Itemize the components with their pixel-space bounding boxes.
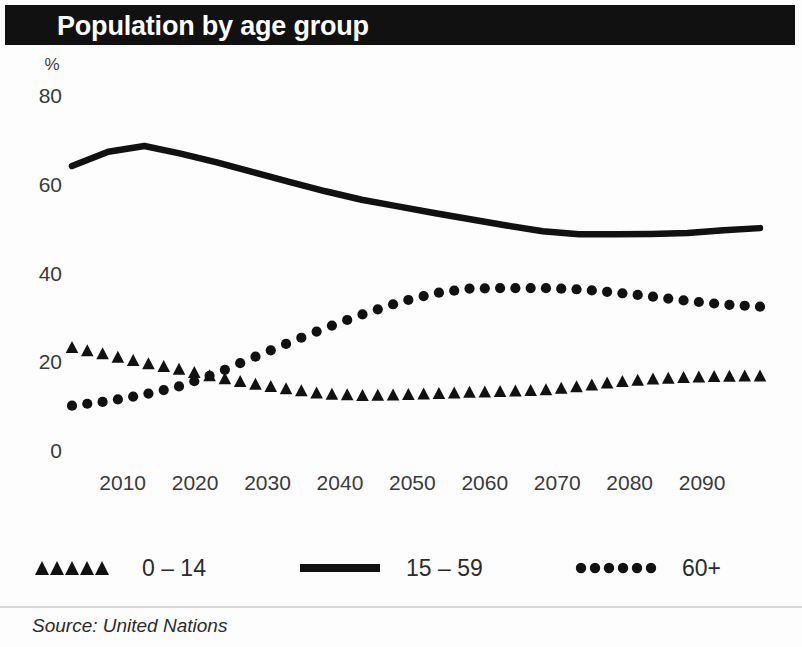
title-banner: Population by age group	[5, 5, 795, 45]
series-dot-marker	[556, 284, 566, 294]
legend-triangle-swatch	[35, 561, 49, 575]
legend-line-swatch	[300, 564, 380, 572]
legend-dot-swatch	[604, 563, 614, 573]
series-dot-marker	[250, 352, 260, 362]
series-triangle-marker	[708, 370, 721, 382]
series-dot-marker	[220, 365, 230, 375]
legend-dots-icon	[572, 553, 660, 583]
y-axis-tick-label-4: 80	[39, 84, 62, 107]
x-axis-tick-label-3: 2040	[317, 471, 364, 494]
legend-dot-swatch	[590, 563, 600, 573]
series-triangle-marker	[677, 371, 690, 383]
series-solid-line	[72, 146, 760, 234]
series-dot-marker	[510, 283, 520, 293]
legend-label: 15 – 59	[406, 555, 483, 582]
series-dot-marker	[480, 283, 490, 293]
legend-dot-swatch	[576, 563, 586, 573]
y-axis-tick-label-2: 40	[39, 262, 62, 285]
legend-triangle-swatch	[95, 561, 109, 575]
series-triangle-marker	[479, 385, 492, 397]
series-dot-marker	[403, 295, 413, 305]
legend-dot-swatch	[618, 563, 628, 573]
series-triangle-marker	[234, 375, 247, 387]
series-triangle-marker	[723, 370, 736, 382]
x-axis-tick-label-6: 2070	[534, 471, 581, 494]
series-triangle-marker	[524, 384, 537, 396]
series-dot-marker	[419, 291, 429, 301]
x-axis-tick-label-8: 2090	[679, 471, 726, 494]
chart-page: Population by age group %020406080 20102…	[0, 0, 802, 647]
series-triangle-marker	[693, 370, 706, 382]
footer-divider	[0, 606, 802, 608]
y-axis-tick-label-3: 60	[39, 173, 62, 196]
series-triangle-marker	[371, 389, 384, 401]
chart-series-group	[66, 146, 767, 411]
series-dot-marker	[281, 339, 291, 349]
series-triangle-marker	[463, 386, 476, 398]
chart-legend: 0 – 1415 – 5960+	[0, 548, 802, 600]
legend-entry-0[interactable]: 0 – 14	[32, 548, 206, 588]
page-title: Population by age group	[57, 11, 369, 42]
series-dot-marker	[617, 288, 627, 298]
legend-triangles-icon	[32, 553, 120, 583]
series-triangle-marker	[448, 386, 461, 398]
series-dot-marker	[159, 385, 169, 395]
series-triangle-marker	[586, 378, 599, 390]
series-triangle-marker	[555, 382, 568, 394]
series-dot-marker	[296, 333, 306, 343]
x-axis-tick-label-7: 2080	[606, 471, 653, 494]
series-triangle-marker	[81, 344, 94, 356]
series-triangle-marker	[494, 385, 507, 397]
legend-dot-swatch	[646, 563, 656, 573]
series-dot-marker	[526, 283, 536, 293]
y-axis-tick-label-1: 20	[39, 350, 62, 373]
population-line-chart: %020406080 20102020203020402050206020702…	[0, 48, 802, 508]
series-dot-marker	[449, 286, 459, 296]
series-dot-marker	[266, 345, 276, 355]
series-triangle-marker	[402, 388, 415, 400]
series-dot-marker	[113, 394, 123, 404]
series-dot-marker	[357, 309, 367, 319]
series-triangle-marker	[601, 377, 614, 389]
series-dot-marker	[97, 397, 107, 407]
series-triangle-marker	[647, 372, 660, 384]
series-dot-marker	[740, 301, 750, 311]
series-triangle-marker	[356, 389, 369, 401]
series-triangle-marker	[631, 374, 644, 386]
series-dot-marker	[571, 284, 581, 294]
legend-triangle-swatch	[80, 561, 94, 575]
series-triangle-marker	[433, 387, 446, 399]
series-triangle-marker	[326, 388, 339, 400]
series-triangle-marker	[249, 378, 262, 390]
series-dot-marker	[128, 392, 138, 402]
series-dot-marker	[648, 292, 658, 302]
chart-plot-area: %020406080 20102020203020402050206020702…	[0, 48, 802, 508]
x-axis-tick-label-0: 2010	[99, 471, 146, 494]
series-triangle-marker	[540, 383, 553, 395]
series-triangle-marker	[341, 388, 354, 400]
series-triangle-marker	[295, 384, 308, 396]
series-dot-marker	[143, 388, 153, 398]
series-triangle-marker	[754, 369, 767, 381]
x-axis-tick-label-4: 2050	[389, 471, 436, 494]
legend-triangle-swatch	[50, 561, 64, 575]
x-axis-tick-label-1: 2020	[172, 471, 219, 494]
series-dots	[67, 283, 765, 411]
y-axis-unit-label: %	[44, 55, 59, 74]
series-triangle-marker	[112, 351, 125, 363]
series-triangle-marker	[66, 341, 79, 353]
legend-entry-2[interactable]: 60+	[572, 548, 721, 588]
series-triangle-marker	[157, 360, 170, 372]
series-dot-marker	[327, 321, 337, 331]
series-triangle-marker	[387, 389, 400, 401]
legend-solid-line-icon	[296, 553, 384, 583]
series-dot-marker	[189, 376, 199, 386]
series-triangle-marker	[616, 375, 629, 387]
source-note: Source: United Nations	[32, 615, 227, 637]
series-triangle-marker	[570, 380, 583, 392]
series-dot-marker	[724, 300, 734, 310]
legend-entry-1[interactable]: 15 – 59	[296, 548, 483, 588]
y-axis-tick-label-0: 0	[50, 439, 62, 462]
series-dot-marker	[602, 287, 612, 297]
series-dot-marker	[694, 297, 704, 307]
